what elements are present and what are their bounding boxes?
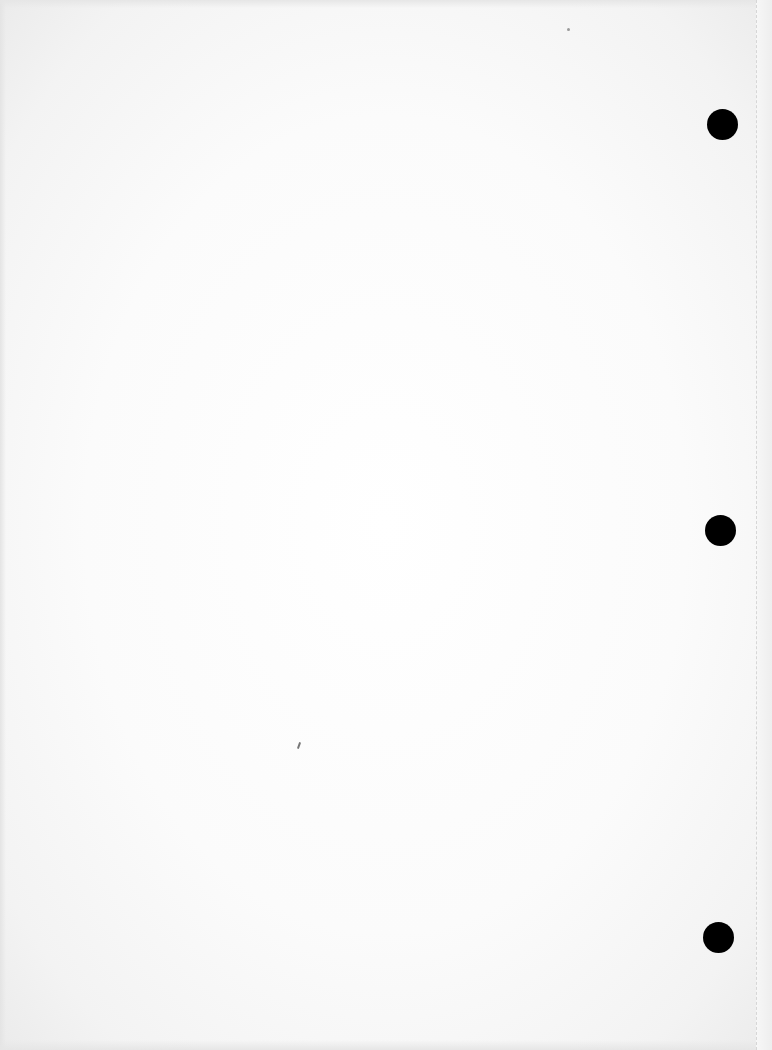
right-margin-strip (756, 0, 772, 1050)
scan-speck (567, 28, 570, 31)
scanned-page (0, 0, 772, 1050)
pen-mark (297, 742, 301, 749)
page-edge-shadow-bottom (0, 1040, 772, 1050)
punch-hole-icon (703, 922, 734, 953)
punch-hole-icon (707, 109, 738, 140)
perforation-line (756, 0, 757, 1050)
page-edge-shadow-top (0, 0, 772, 8)
page-edge-shadow-left (0, 0, 6, 1050)
punch-hole-icon (705, 515, 736, 546)
